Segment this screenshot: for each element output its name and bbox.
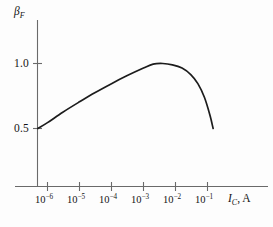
x-axis-unit: , A — [237, 192, 250, 204]
x-tick-exponent: −1 — [206, 193, 214, 201]
x-tick-label-1e-4: 10−4 — [99, 194, 117, 205]
x-tick-label-1e-6: 10−6 — [35, 194, 53, 205]
x-tick-label-1e-1: 10−1 — [195, 194, 213, 205]
axes-group — [15, 20, 268, 187]
beta-f-vs-ic-chart: 1.0 0.5 10−6 10−5 10−4 10−3 10−2 10−1 βF… — [0, 0, 273, 227]
x-tick-exponent: −2 — [174, 193, 182, 201]
x-axis-title: IC, A — [228, 192, 251, 204]
x-tick-label-1e-2: 10−2 — [163, 194, 181, 205]
x-tick-mantissa: 10 — [67, 194, 78, 205]
x-tick-mantissa: 10 — [99, 194, 110, 205]
x-tick-label-1e-3: 10−3 — [131, 194, 149, 205]
x-tick-mantissa: 10 — [195, 194, 206, 205]
x-tick-exponent: −3 — [142, 193, 150, 201]
x-tick-label-1e-5: 10−5 — [67, 194, 85, 205]
x-tick-mantissa: 10 — [163, 194, 174, 205]
x-tick-exponent: −6 — [46, 193, 54, 201]
y-tick-label-1.0: 1.0 — [14, 57, 29, 69]
y-axis-title: βF — [14, 5, 25, 17]
y-tick-label-0.5: 0.5 — [14, 122, 29, 134]
beta-f-curve — [38, 63, 213, 128]
x-tick-mantissa: 10 — [131, 194, 142, 205]
x-tick-mantissa: 10 — [35, 194, 46, 205]
x-tick-exponent: −5 — [78, 193, 86, 201]
y-axis-subscript: F — [20, 11, 25, 20]
x-tick-exponent: −4 — [110, 193, 118, 201]
